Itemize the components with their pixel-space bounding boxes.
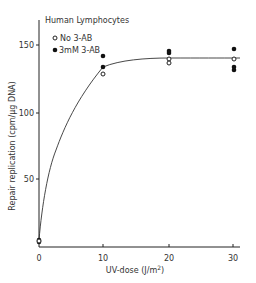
y-ticks: 50 100 150 [19, 41, 39, 184]
x-axis-label: UV-dose (J/m2) [106, 264, 164, 275]
series-no-3ab [37, 57, 236, 243]
ytick-50: 50 [24, 175, 34, 184]
series-3mm-3ab [37, 47, 237, 245]
y-axis-label: Repair replication (cpm/µg DNA) [8, 81, 17, 210]
data-point [37, 239, 41, 243]
xtick-0: 0 [36, 254, 41, 263]
legend-open-circle-icon [53, 36, 57, 40]
chart-title: Human Lymphocytes [45, 16, 129, 25]
legend-filled-circle-icon [53, 48, 58, 53]
ytick-150: 150 [19, 41, 34, 50]
data-point [101, 54, 106, 59]
legend-label-3mm-3ab: 3mM 3-AB [59, 46, 100, 55]
data-point [167, 61, 171, 65]
data-point [101, 72, 105, 76]
legend-label-no-3ab: No 3-AB [60, 34, 92, 43]
chart: 50 100 150 0 10 20 30 UV-dose (J/m2) Rep… [0, 0, 256, 283]
data-point [232, 47, 237, 52]
data-point [167, 51, 172, 56]
data-point [232, 68, 237, 73]
data-point [101, 65, 106, 70]
legend: No 3-AB 3mM 3-AB [53, 34, 100, 55]
data-point [232, 57, 236, 61]
xtick-30: 30 [228, 254, 238, 263]
xtick-20: 20 [164, 254, 174, 263]
fit-curve [39, 58, 240, 240]
ytick-100: 100 [19, 109, 34, 118]
xtick-10: 10 [98, 254, 108, 263]
data-point [167, 57, 171, 61]
